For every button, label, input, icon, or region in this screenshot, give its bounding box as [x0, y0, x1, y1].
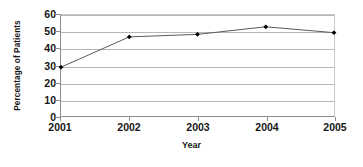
x-axis-title-text: Year [182, 140, 201, 150]
y-tick-label: 30 [30, 60, 56, 71]
y-tick-label: 40 [30, 43, 56, 54]
x-tick-label: 2003 [186, 122, 209, 133]
line-chart: Percentage of Patients 60 50 40 30 20 10… [0, 0, 363, 167]
x-tick-label: 2004 [255, 122, 278, 133]
data-series-line [61, 15, 334, 116]
data-point-marker [332, 30, 337, 35]
data-point-marker [263, 24, 268, 29]
data-point-marker [195, 32, 200, 37]
y-tick-label: 20 [30, 77, 56, 88]
y-axis-title-text: Percentage of Patients [13, 20, 22, 110]
x-axis-title: Year [0, 140, 363, 150]
plot-area [60, 14, 335, 117]
data-point-marker [127, 35, 132, 40]
x-tick-label: 2005 [323, 122, 346, 133]
y-tick-label: 50 [30, 26, 56, 37]
y-axis-title: Percentage of Patients [4, 0, 30, 130]
x-tick-label: 2002 [117, 122, 140, 133]
y-tick-label: 10 [30, 95, 56, 106]
data-point-marker [59, 65, 64, 70]
y-tick-label: 60 [30, 9, 56, 20]
x-tick-label: 2001 [48, 122, 71, 133]
